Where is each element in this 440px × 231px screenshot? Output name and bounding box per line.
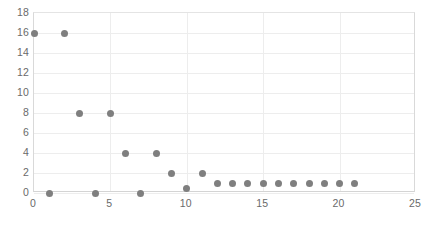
x-axis-tick-label: 0 [13, 197, 53, 209]
data-point [260, 180, 267, 187]
data-point [321, 180, 328, 187]
gridline-horizontal [34, 53, 414, 54]
y-axis-tick-label: 4 [1, 147, 29, 157]
x-axis-tick-label: 15 [242, 197, 282, 209]
y-axis-tick-label: 2 [1, 167, 29, 177]
gridline-vertical [110, 13, 111, 191]
x-axis-tick-labels: 0510152025 [33, 197, 415, 213]
data-point [61, 30, 68, 37]
data-point [183, 185, 190, 192]
gridline-horizontal [34, 33, 414, 34]
gridline-horizontal [34, 73, 414, 74]
data-point [336, 180, 343, 187]
data-point [137, 190, 144, 197]
data-point [199, 170, 206, 177]
data-point [214, 180, 221, 187]
y-axis-tick-label: 0 [1, 187, 29, 197]
y-axis-tick-label: 8 [1, 107, 29, 117]
gridline-horizontal [34, 153, 414, 154]
data-point [153, 150, 160, 157]
data-point [168, 170, 175, 177]
data-point [229, 180, 236, 187]
y-axis-tick-label: 18 [1, 7, 29, 17]
data-point [351, 180, 358, 187]
y-axis-tick-label: 10 [1, 87, 29, 97]
y-axis-tick-label: 16 [1, 27, 29, 37]
gridline-vertical [340, 13, 341, 191]
data-point [290, 180, 297, 187]
y-axis-tick-label: 14 [1, 47, 29, 57]
data-point [46, 190, 53, 197]
data-point [107, 110, 114, 117]
data-point [31, 30, 38, 37]
x-axis-tick-label: 10 [166, 197, 206, 209]
gridline-vertical [263, 13, 264, 191]
data-point [76, 110, 83, 117]
data-point [306, 180, 313, 187]
data-point [92, 190, 99, 197]
plot-area [33, 12, 415, 192]
gridline-horizontal [34, 173, 414, 174]
scatter-chart: 024681012141618 0510152025 [0, 0, 440, 231]
data-point [122, 150, 129, 157]
y-axis-tick-label: 6 [1, 127, 29, 137]
x-axis-tick-label: 25 [395, 197, 435, 209]
x-axis-tick-label: 5 [89, 197, 129, 209]
data-point [275, 180, 282, 187]
gridline-horizontal [34, 133, 414, 134]
y-axis-tick-labels: 024681012141618 [0, 12, 29, 192]
gridline-horizontal [34, 113, 414, 114]
data-point [244, 180, 251, 187]
y-axis-tick-label: 12 [1, 67, 29, 77]
x-axis-tick-label: 20 [319, 197, 359, 209]
gridline-vertical [187, 13, 188, 191]
gridline-horizontal [34, 93, 414, 94]
